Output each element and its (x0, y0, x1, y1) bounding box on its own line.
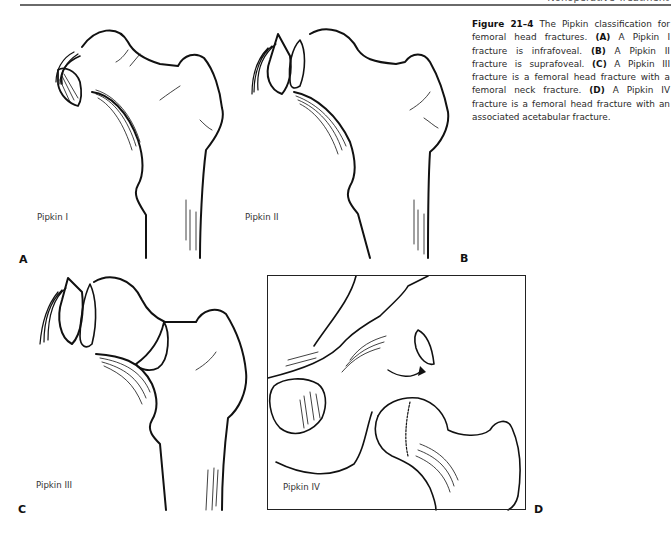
femur-illustration-b (252, 29, 448, 258)
panel-c-label: Pipkin III (36, 480, 72, 490)
panel-d-letter: D (534, 503, 543, 516)
figure-number: Figure 21–4 (472, 19, 533, 29)
caption-tag-b: (B) (591, 46, 606, 56)
panel-a-letter: A (19, 253, 28, 266)
caption-tag-d: (D) (589, 85, 604, 95)
femur-illustration-a (56, 30, 223, 258)
femur-illustration-c (40, 277, 246, 510)
caption-tag-c: (C) (592, 59, 607, 69)
panel-b-letter: B (460, 252, 468, 265)
figure-caption: Figure 21–4 The Pipkin classification fo… (472, 18, 670, 124)
caption-tag-a: (A) (595, 32, 610, 42)
panel-a-label: Pipkin I (37, 212, 68, 222)
panel-d-label: Pipkin IV (283, 482, 320, 492)
panel-b-label: Pipkin II (245, 212, 278, 222)
panel-d-frame (267, 275, 526, 510)
panel-c-letter: C (18, 503, 26, 516)
